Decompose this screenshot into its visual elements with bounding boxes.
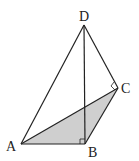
label-a: A — [6, 139, 17, 154]
label-b: B — [88, 145, 97, 160]
label-c: C — [121, 81, 130, 96]
edge-dc — [84, 25, 118, 88]
right-angle-mark-c — [111, 82, 115, 90]
label-d: D — [79, 9, 89, 24]
tetrahedron-diagram: D C A B — [0, 0, 139, 161]
